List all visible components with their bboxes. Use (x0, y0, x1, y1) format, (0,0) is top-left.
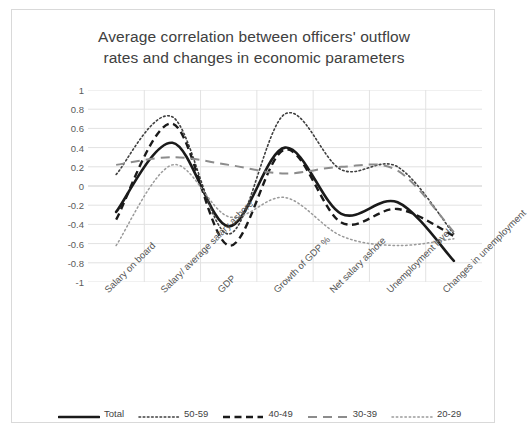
legend-label: 50-59 (184, 408, 208, 419)
chart-card: Average correlation between officers' ou… (11, 9, 495, 423)
y-axis-tick: 1 (54, 85, 84, 96)
y-axis-tick: -0.4 (54, 219, 84, 230)
legend-item-total[interactable]: Total (58, 408, 124, 419)
chart-legend: Total50-5940-4930-3920-29 (58, 402, 458, 424)
y-axis-tick: -0.6 (54, 238, 84, 249)
legend-swatch (391, 408, 433, 418)
legend-swatch (307, 408, 349, 418)
legend-swatch (138, 408, 180, 418)
y-axis-tick: 0.8 (54, 104, 84, 115)
x-axis: Salary on boardSalary/ average salary as… (54, 282, 494, 394)
legend-item-30-39[interactable]: 30-39 (307, 408, 377, 419)
legend-label: 20-29 (437, 408, 461, 419)
chart-title: Average correlation between officers' ou… (52, 26, 456, 68)
legend-item-40-49[interactable]: 40-49 (222, 408, 292, 419)
chart-title-line-2: rates and changes in economic parameters (52, 47, 456, 68)
series-line-40-49 (116, 123, 454, 245)
y-axis-tick: -0.8 (54, 257, 84, 268)
y-axis-tick: 0.6 (54, 123, 84, 134)
y-axis-tick: 0 (54, 181, 84, 192)
legend-label: Total (104, 408, 124, 419)
series-line-30-39 (116, 157, 454, 232)
chart-title-line-1: Average correlation between officers' ou… (52, 26, 456, 47)
legend-item-20-29[interactable]: 20-29 (391, 408, 461, 419)
y-axis-tick: 0.2 (54, 161, 84, 172)
legend-label: 30-39 (353, 408, 377, 419)
legend-swatch (58, 408, 100, 418)
y-axis-tick: -0.2 (54, 200, 84, 211)
legend-swatch (222, 408, 264, 418)
y-axis: 10.80.60.40.20-0.2-0.4-0.6-0.8-1 (54, 90, 84, 282)
legend-label: 40-49 (268, 408, 292, 419)
legend-item-50-59[interactable]: 50-59 (138, 408, 208, 419)
y-axis-tick: 0.4 (54, 142, 84, 153)
